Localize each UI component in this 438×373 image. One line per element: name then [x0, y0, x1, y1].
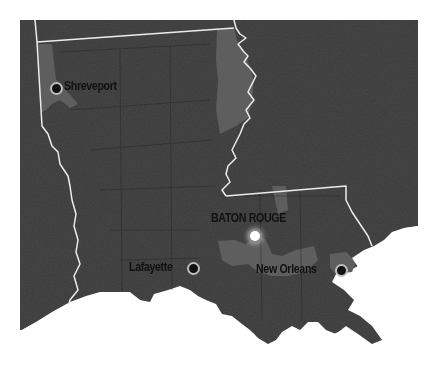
shreveport-label: Shreveport [64, 79, 117, 93]
new-orleans-marker [335, 264, 348, 277]
new-orleans-label: New Orleans [256, 262, 317, 276]
lafayette-label: Lafayette [129, 260, 173, 274]
shreveport-marker [50, 82, 63, 95]
baton-rouge-capital-marker [250, 231, 260, 241]
lafayette-marker [187, 262, 200, 275]
baton-rouge-label: BATON ROUGE [211, 211, 286, 225]
louisiana-map [0, 0, 438, 373]
